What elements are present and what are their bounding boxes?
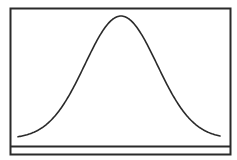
bell-curve-diagram — [0, 0, 237, 160]
background — [0, 0, 237, 160]
